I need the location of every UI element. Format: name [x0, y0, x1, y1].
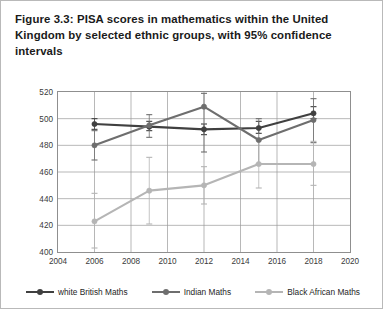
legend-label: Black African Maths: [287, 287, 360, 297]
legend-marker-icon: [255, 287, 283, 297]
data-point: [92, 219, 97, 224]
figure-container: Figure 3.3: PISA scores in mathematics w…: [0, 0, 383, 309]
y-axis-tick-label: 480: [13, 141, 53, 150]
figure-title: Figure 3.3: PISA scores in mathematics w…: [15, 11, 365, 59]
data-point: [92, 121, 97, 126]
chart-area: 400420440460480500520 200420062008201020…: [10, 85, 376, 270]
data-point: [311, 111, 316, 116]
data-point: [256, 125, 261, 130]
legend-item-0[interactable]: white British Maths: [26, 287, 128, 297]
legend-item-1[interactable]: Indian Maths: [152, 287, 232, 297]
data-point: [311, 161, 316, 166]
x-axis-tick-label: 2004: [38, 257, 78, 266]
legend-label: Indian Maths: [184, 287, 232, 297]
chart-svg: [10, 85, 376, 270]
y-axis-tick-label: 440: [13, 194, 53, 203]
x-axis-tick-label: 2016: [257, 257, 297, 266]
data-point: [256, 161, 261, 166]
data-point: [201, 104, 206, 109]
x-axis-tick-label: 2012: [184, 257, 224, 266]
legend-item-2[interactable]: Black African Maths: [255, 287, 360, 297]
x-axis-tick-label: 2020: [330, 257, 370, 266]
x-axis-tick-label: 2010: [148, 257, 188, 266]
legend-marker-icon: [26, 287, 54, 297]
data-point: [201, 183, 206, 188]
data-point: [147, 188, 152, 193]
legend-marker-icon: [152, 287, 180, 297]
x-axis-tick-label: 2006: [75, 257, 115, 266]
x-axis-tick-label: 2008: [111, 257, 151, 266]
data-point: [201, 127, 206, 132]
legend-label: white British Maths: [58, 287, 128, 297]
data-point: [147, 123, 152, 128]
chart-legend: white British MathsIndian MathsBlack Afr…: [10, 282, 376, 302]
y-axis-tick-label: 460: [13, 168, 53, 177]
data-point: [92, 143, 97, 148]
y-axis-tick-label: 500: [13, 114, 53, 123]
y-axis-tick-label: 400: [13, 248, 53, 257]
x-axis-tick-label: 2014: [221, 257, 261, 266]
y-axis-tick-label: 420: [13, 221, 53, 230]
y-axis-tick-label: 520: [13, 88, 53, 97]
data-point: [311, 117, 316, 122]
data-point: [256, 137, 261, 142]
x-axis-tick-label: 2018: [294, 257, 334, 266]
